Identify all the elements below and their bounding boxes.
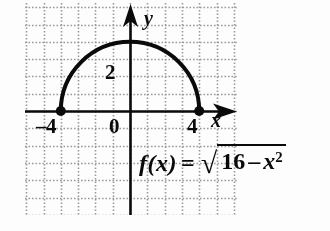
- equation-function-name: f(x): [139, 150, 177, 177]
- y-tick-label-2: 2: [105, 62, 116, 83]
- graph-figure: y x –4 0 4 2 f(x) = √ 16 – x2: [0, 0, 330, 231]
- radicand: 16 – x2: [217, 144, 285, 175]
- graph-plot-area: [25, 3, 238, 215]
- semicircle-curve: [25, 3, 238, 215]
- origin-label: 0: [109, 116, 120, 137]
- y-axis-label: y: [144, 8, 153, 28]
- x-axis-label: x: [211, 110, 221, 130]
- equation-equals-sign: =: [181, 150, 195, 177]
- function-equation: f(x) = √ 16 – x2: [139, 146, 286, 177]
- square-root-expression: √ 16 – x2: [201, 146, 286, 177]
- x-tick-label-4: 4: [187, 116, 198, 137]
- radical-sign-icon: √: [201, 148, 217, 178]
- radicand-number: 16: [221, 148, 245, 175]
- radicand-variable: x: [263, 148, 275, 175]
- x-tick-label-minus-4: –4: [36, 116, 56, 137]
- radicand-minus-sign: –: [248, 148, 260, 175]
